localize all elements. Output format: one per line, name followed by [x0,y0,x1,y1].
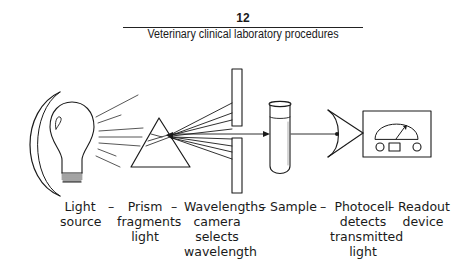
label-wavelength-selector: Wavelengths camera selects wavelength [184,199,250,259]
label-line: selects [184,229,250,244]
label-sample: Sample [270,199,316,214]
test-tube-icon [269,101,291,173]
label-line: Readout [398,199,448,214]
slit-icon [232,69,242,193]
label-line: transmitted [330,229,396,244]
label-light-source: Light source [60,199,100,229]
label-line: Sample [270,199,316,214]
label-line: camera [184,214,250,229]
label-prism: Prism fragments light [117,199,173,244]
label-readout: Readout device [398,199,448,229]
label-line: wavelength [184,244,250,259]
light-bulb-icon [50,102,94,182]
photocell-icon [328,110,363,157]
label-line: Wavelengths [184,199,250,214]
label-line: detects [330,214,396,229]
label-line: source [60,214,100,229]
light-rays [96,95,143,167]
separator: – [171,199,177,214]
meter-icon [363,111,431,157]
label-line: light [330,244,396,259]
label-photocell: Photocell detects transmitted light [330,199,396,259]
prism-icon [131,118,190,167]
separator: – [320,199,326,214]
spectrum-fan [172,103,232,159]
label-line: light [117,229,173,244]
label-line: Light [60,199,100,214]
separator: – [108,199,114,214]
light-beam [172,131,339,137]
label-line: device [398,214,448,229]
label-line: fragments [117,214,173,229]
label-line: Photocell [330,199,396,214]
label-line: Prism [117,199,173,214]
separator: – [260,199,266,214]
separator: – [388,199,394,214]
